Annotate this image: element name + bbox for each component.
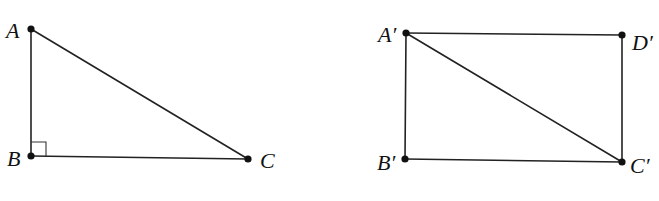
geometry-diagram: A B C A′ D′ B′ C′ xyxy=(0,0,659,201)
point-d-prime xyxy=(618,31,625,38)
point-a-prime xyxy=(402,29,409,36)
rectangle-abcd-prime: A′ D′ B′ C′ xyxy=(376,22,654,178)
point-c-prime xyxy=(618,158,625,165)
label-d-prime: D′ xyxy=(631,30,654,55)
label-b-prime: B′ xyxy=(377,150,396,175)
point-b xyxy=(27,152,34,159)
segment-b-prime-a-prime xyxy=(405,33,406,159)
diagonal-a-prime-c-prime xyxy=(406,33,622,162)
point-b-prime xyxy=(401,155,408,162)
label-a-prime: A′ xyxy=(376,22,397,47)
label-c: C xyxy=(260,148,275,173)
segment-ac xyxy=(31,29,248,159)
label-b: B xyxy=(7,146,20,171)
label-a: A xyxy=(4,18,20,43)
segment-bc xyxy=(31,156,248,159)
point-c xyxy=(244,155,251,162)
triangle-abc: A B C xyxy=(4,18,275,173)
segment-a-prime-d-prime xyxy=(406,33,622,35)
point-a xyxy=(27,25,34,32)
label-c-prime: C′ xyxy=(630,153,651,178)
segment-c-prime-b-prime xyxy=(405,159,622,162)
